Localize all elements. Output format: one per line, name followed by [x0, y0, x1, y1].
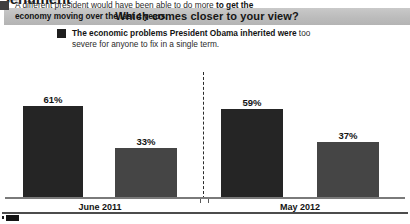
- bar-value-label: 37%: [338, 130, 357, 141]
- x-axis-label-june-2011: June 2011: [23, 202, 177, 212]
- period-divider-dashed-line: [203, 72, 204, 199]
- legend-label-series-1-bold: The economic problems President Obama in…: [72, 28, 299, 38]
- x-axis-line: [5, 197, 405, 199]
- bar-june2011-series1: 61%: [23, 92, 83, 197]
- bottom-divider-rule: [2, 212, 408, 214]
- bar-rect: [221, 109, 283, 197]
- legend-item-too-severe: The economic problems President Obama in…: [57, 28, 357, 49]
- legend-item-different-president: A different president would have been ab…: [0, 0, 410, 21]
- bar-june2011-series2: 33%: [115, 134, 177, 197]
- chart-legend: The economic problems President Obama in…: [57, 28, 357, 54]
- legend-swatch-icon-series-1: [57, 29, 66, 38]
- legend-label-series-1: The economic problems President Obama in…: [72, 28, 330, 49]
- chart-plot-area: 61% 33% 59% 37%: [5, 72, 405, 199]
- legend-label-series-2-regular: A different president would have been ab…: [15, 0, 216, 10]
- bar-value-label: 61%: [43, 94, 62, 105]
- bar-value-label: 59%: [242, 97, 261, 108]
- legend-swatch-icon-series-2: [0, 1, 9, 10]
- bar-value-label: 33%: [136, 136, 155, 147]
- bar-may2012-series2: 37%: [317, 128, 379, 197]
- footnote-source-mark: [6, 215, 19, 221]
- bar-rect: [317, 142, 379, 197]
- legend-label-series-2: A different president would have been ab…: [15, 0, 273, 21]
- x-axis-label-may-2012: May 2012: [221, 202, 379, 212]
- bar-rect: [115, 148, 177, 197]
- bar-may2012-series1: 59%: [221, 95, 283, 197]
- footnote-bullet-icon: [2, 216, 4, 219]
- bar-rect: [23, 106, 83, 197]
